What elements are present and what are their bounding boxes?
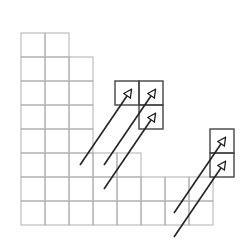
grid-cell xyxy=(69,57,93,81)
grid-cell xyxy=(45,201,69,225)
grid-cell xyxy=(141,177,165,201)
grid-cell xyxy=(45,81,69,105)
grid-cell xyxy=(69,129,93,153)
grid-cell xyxy=(21,201,45,225)
grid-cell xyxy=(21,129,45,153)
young-diagram-figure xyxy=(0,0,244,249)
grid-cell xyxy=(45,153,69,177)
grid-cell xyxy=(45,33,69,57)
grid-cell xyxy=(117,201,141,225)
arrow-icon xyxy=(174,138,225,213)
arrow-icon xyxy=(174,162,225,237)
grid-cell xyxy=(45,129,69,153)
arrow-icon xyxy=(104,114,155,189)
grid-cell xyxy=(21,105,45,129)
grid-cell xyxy=(93,177,117,201)
grid-cell xyxy=(69,201,93,225)
added-box xyxy=(115,81,139,105)
arrow-icon xyxy=(104,90,155,165)
grid-cell xyxy=(189,201,213,225)
grid-cell xyxy=(69,153,93,177)
grid-cell xyxy=(21,57,45,81)
grid-cell xyxy=(45,177,69,201)
added-box xyxy=(139,81,163,105)
added-boxes xyxy=(115,81,234,177)
arrows xyxy=(80,90,225,237)
grid-cell xyxy=(21,81,45,105)
grid-cell xyxy=(117,177,141,201)
grid-cell xyxy=(69,177,93,201)
arrow-icon xyxy=(80,90,131,165)
grid-cell xyxy=(69,105,93,129)
grid-cell xyxy=(45,105,69,129)
grid-cell xyxy=(21,153,45,177)
grid-cell xyxy=(21,33,45,57)
grid-cells xyxy=(21,33,213,225)
grid-cell xyxy=(45,57,69,81)
grid-cell xyxy=(93,153,117,177)
grid-cell xyxy=(69,81,93,105)
grid-cell xyxy=(21,177,45,201)
grid-cell xyxy=(93,201,117,225)
grid-cell xyxy=(141,201,165,225)
